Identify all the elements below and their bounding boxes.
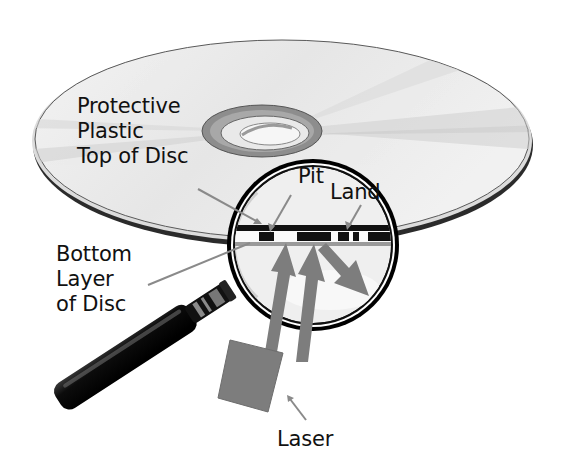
laser-emitter-icon <box>218 340 283 412</box>
label-line: of Disc <box>56 292 132 317</box>
label-line: Bottom <box>56 242 132 267</box>
disc-cross-section <box>230 225 400 246</box>
pit-marker <box>297 232 331 241</box>
cd-laser-diagram: Protective Plastic Top of Disc Bottom La… <box>0 0 561 465</box>
label-laser: Laser <box>277 427 333 452</box>
label-line: Layer <box>56 267 132 292</box>
pit-marker <box>338 232 349 241</box>
pit-marker <box>353 232 359 241</box>
pit-marker <box>259 232 274 241</box>
label-bottom-layer: Bottom Layer of Disc <box>56 242 132 317</box>
label-line: Top of Disc <box>77 144 188 169</box>
label-protective-plastic-top: Protective Plastic Top of Disc <box>77 94 188 169</box>
label-line: Protective <box>77 94 188 119</box>
label-line: Plastic <box>77 119 188 144</box>
label-pit: Pit <box>298 164 324 189</box>
label-land: Land <box>330 180 380 205</box>
diagram-artwork <box>0 0 561 465</box>
